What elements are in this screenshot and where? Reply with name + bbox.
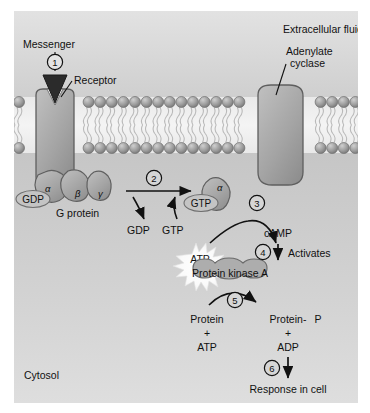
- lipid-head: [106, 143, 117, 154]
- step-badge-2[interactable]: 2: [146, 170, 161, 185]
- lipid-head: [315, 143, 326, 154]
- step-badge-4[interactable]: 4: [255, 244, 270, 259]
- lipid-head: [118, 143, 129, 154]
- lipid-head: [176, 143, 187, 154]
- lipid-head: [188, 143, 199, 154]
- lipid-head: [211, 143, 222, 154]
- camp-label: cAMP: [264, 227, 292, 239]
- step-5-number: 5: [232, 295, 237, 306]
- lipid-head: [234, 97, 245, 108]
- step-6-number: 6: [269, 363, 274, 374]
- lipid-head: [211, 97, 222, 108]
- lipid-head: [164, 97, 175, 108]
- plus-right-label: +: [285, 327, 291, 339]
- step-badge-3[interactable]: 3: [249, 195, 264, 210]
- adenylate-cyclase-protein[interactable]: [258, 85, 303, 185]
- lipid-head: [327, 143, 338, 154]
- lipid-head: [350, 143, 358, 154]
- step-badge-1[interactable]: 1: [47, 54, 62, 69]
- gdp-bound-label: GDP: [22, 194, 44, 205]
- g-protein-label: G protein: [56, 207, 99, 219]
- lipid-head: [130, 97, 141, 108]
- pathway-svg: α β γ GDP α GTP Extracellular fluid Mess…: [14, 11, 358, 403]
- extracellular-fluid-label: Extracellular fluid: [283, 23, 358, 35]
- activates-label: Activates: [288, 247, 331, 259]
- gdp-released-label: GDP: [127, 224, 150, 236]
- step-badge-6[interactable]: 6: [264, 360, 279, 375]
- lipid-head: [327, 97, 338, 108]
- lipid-head: [141, 97, 152, 108]
- g-beta-label: β: [74, 188, 81, 199]
- figure-canvas: α β γ GDP α GTP Extracellular fluid Mess…: [0, 0, 370, 413]
- messenger-label: Messenger: [23, 38, 75, 50]
- step-1-number: 1: [52, 57, 57, 68]
- lipid-head: [176, 97, 187, 108]
- phosphate-group-label: P: [314, 313, 321, 325]
- lipid-head: [315, 97, 326, 108]
- lipid-head: [234, 143, 245, 154]
- receptor-label: Receptor: [74, 74, 117, 86]
- atp-reactant-label: ATP: [197, 341, 217, 353]
- adenylate-cyclase-label-line2: cyclase: [290, 57, 325, 69]
- g-alpha-label: α: [45, 183, 51, 194]
- signal-transduction-diagram: α β γ GDP α GTP Extracellular fluid Mess…: [14, 11, 358, 403]
- lipid-head: [14, 143, 25, 154]
- gtp-incoming-label: GTP: [162, 224, 184, 236]
- lipid-head: [153, 143, 164, 154]
- lipid-head: [188, 97, 199, 108]
- step-4-number: 4: [260, 247, 265, 258]
- lipid-head: [141, 143, 152, 154]
- protein-kinase-a-node[interactable]: Protein kinase A: [192, 258, 268, 279]
- gtp-bound-label: GTP: [191, 198, 212, 209]
- protein-kinase-a-label: Protein kinase A: [192, 267, 268, 279]
- protein-substrate-label: Protein: [190, 313, 223, 325]
- lipid-head: [350, 97, 358, 108]
- lipid-head: [130, 143, 141, 154]
- plus-left-label: +: [204, 327, 210, 339]
- lipid-head: [95, 143, 106, 154]
- lipid-head: [222, 143, 233, 154]
- lipid-head: [83, 143, 94, 154]
- lipid-head: [83, 97, 94, 108]
- lipid-head: [338, 97, 349, 108]
- lipid-head: [118, 97, 129, 108]
- step-3-number: 3: [254, 198, 259, 209]
- lipid-head: [199, 143, 210, 154]
- lipid-head: [338, 143, 349, 154]
- lipid-head: [106, 97, 117, 108]
- lipid-head: [14, 97, 25, 108]
- phosphoprotein-label: Protein-: [270, 313, 307, 325]
- cytosol-label: Cytosol: [24, 369, 59, 381]
- g-alpha-active-label: α: [217, 182, 223, 193]
- adenylate-cyclase-label-line1: Adenylate: [286, 45, 333, 57]
- lipid-head: [222, 97, 233, 108]
- adp-product-label: ADP: [277, 341, 299, 353]
- lipid-head: [164, 143, 175, 154]
- step-2-number: 2: [151, 173, 156, 184]
- step-badge-5[interactable]: 5: [227, 292, 242, 307]
- lipid-head: [95, 97, 106, 108]
- response-in-cell-label: Response in cell: [249, 383, 326, 395]
- lipid-head: [199, 97, 210, 108]
- lipid-head: [153, 97, 164, 108]
